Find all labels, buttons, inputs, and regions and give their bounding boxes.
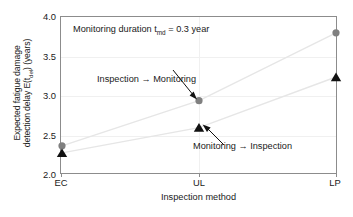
plot-area: Monitoring duration tmd = 0.3 year Inspe… [60,16,337,174]
series-label-monitoring-inspection: Monitoring → Inspection [193,141,292,152]
chart-figure: Expected fatigue damage detection delay … [0,0,353,217]
x-ticklabel-ul: UL [179,178,219,187]
datapoint-circle-ec [58,142,65,149]
y-ticklabel-3.0: 3.0 [30,91,56,100]
caption-fragment [18,208,348,217]
x-ticklabel-lp: LP [315,178,353,187]
note-suffix: = 0.3 year [166,24,210,34]
y-ticklabel-3.5: 3.5 [30,52,56,61]
datapoint-circle-lp [332,29,339,36]
series-label-inspection-monitoring: Inspection → Monitoring [97,74,196,85]
x-ticklabel-ec: EC [41,178,81,187]
y-ticklabel-2.5: 2.5 [30,131,56,140]
datapoint-circle-ul [195,97,202,104]
note-prefix: Monitoring duration t [73,24,157,34]
monitoring-duration-note: Monitoring duration tmd = 0.3 year [73,24,209,38]
datapoint-triangle-ul [194,123,204,132]
x-axis-title: Inspection method [60,192,337,202]
datapoint-triangle-lp [331,73,341,82]
note-subscript: md [157,29,166,36]
y-axis-title-line1: Expected fatigue damage [12,8,22,178]
y-ticklabel-4.0: 4.0 [30,12,56,21]
callout-arrow-insp-mon [190,92,197,100]
